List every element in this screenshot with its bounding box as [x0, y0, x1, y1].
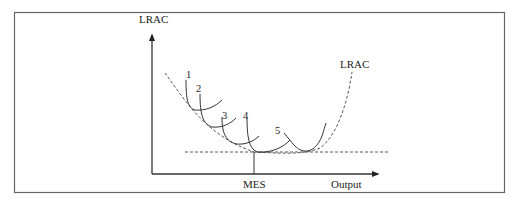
srac-label-3: 3 — [222, 110, 227, 121]
lrac-curve — [165, 72, 352, 153]
srac-curve-2 — [200, 94, 236, 127]
lrac-diagram: LRAC Output MES LRAC 1 2 3 4 5 — [0, 0, 516, 203]
srac-curve-4 — [247, 118, 290, 152]
srac-label-2: 2 — [196, 83, 201, 94]
lrac-curve-label: LRAC — [340, 58, 369, 70]
y-axis-label: LRAC — [139, 13, 168, 25]
srac-label-4: 4 — [243, 110, 249, 121]
srac-curve-5 — [284, 123, 326, 151]
srac-curve-1 — [186, 80, 222, 110]
frame-border — [15, 13, 505, 193]
mes-label: MES — [243, 178, 266, 190]
x-axis-label: Output — [331, 178, 362, 190]
srac-label-1: 1 — [186, 69, 191, 80]
srac-label-5: 5 — [275, 125, 280, 136]
